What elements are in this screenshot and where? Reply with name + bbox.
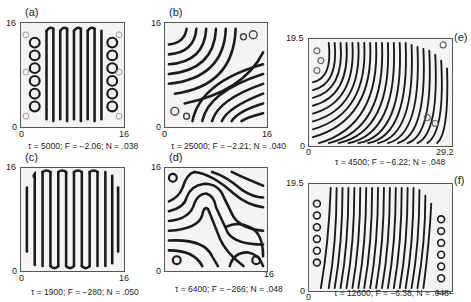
caption-b: τ = 25000; F = −2.21; N = .040 bbox=[171, 141, 286, 151]
x-min-tick-e: 0 bbox=[306, 147, 311, 157]
caption-e: τ = 4500; F = −6.22; N = .048 bbox=[335, 157, 445, 167]
x-max-tick-e: 29.2 bbox=[436, 147, 454, 157]
pattern-image-c bbox=[20, 167, 125, 272]
x-min-tick-c: 0 bbox=[19, 273, 24, 283]
caption-a: τ = 5000; F = −2.06; N = .038 bbox=[28, 141, 138, 151]
caption-d: τ = 6400; F = −266; N = .048 bbox=[175, 284, 283, 294]
pattern-image-e bbox=[308, 38, 453, 147]
panel-label-b: (b) bbox=[169, 6, 182, 18]
pattern-image-b bbox=[164, 22, 268, 128]
y-max-tick-f: 19.5 bbox=[286, 178, 304, 188]
caption-f: τ = 12600; F = −6.38; N = .048 bbox=[334, 288, 449, 298]
panel-label-f: (f) bbox=[454, 174, 464, 186]
x-max-tick-a: 16 bbox=[119, 129, 129, 139]
pattern-image-a bbox=[20, 22, 125, 128]
y-min-tick-d: 0 bbox=[156, 266, 161, 276]
x-min-tick-f: 0 bbox=[306, 292, 311, 302]
y-max-tick-e: 19.5 bbox=[286, 33, 304, 43]
y-min-tick-a: 0 bbox=[12, 122, 17, 132]
y-max-tick-d: 16 bbox=[151, 162, 161, 172]
panel-label-a: (a) bbox=[25, 6, 38, 18]
y-min-tick-f: 0 bbox=[300, 286, 305, 296]
panel-label-c: (c) bbox=[25, 151, 38, 163]
y-max-tick-b: 16 bbox=[151, 18, 161, 28]
y-min-tick-c: 0 bbox=[12, 266, 17, 276]
pattern-image-f bbox=[308, 183, 453, 292]
pattern-image-d bbox=[164, 167, 268, 272]
panel-label-e: (e) bbox=[454, 31, 467, 43]
caption-c: τ = 1900; F = −280; N = .050 bbox=[31, 287, 139, 297]
y-min-tick-b: 0 bbox=[156, 122, 161, 132]
y-min-tick-e: 0 bbox=[300, 141, 305, 151]
y-max-tick-a: 16 bbox=[6, 18, 16, 28]
x-max-tick-c: 16 bbox=[119, 273, 129, 283]
x-min-tick-a: 0 bbox=[19, 129, 24, 139]
panel-label-d: (d) bbox=[169, 151, 182, 163]
y-max-tick-c: 16 bbox=[6, 162, 16, 172]
x-max-tick-b: 16 bbox=[262, 129, 272, 139]
x-min-tick-b: 0 bbox=[162, 129, 167, 139]
